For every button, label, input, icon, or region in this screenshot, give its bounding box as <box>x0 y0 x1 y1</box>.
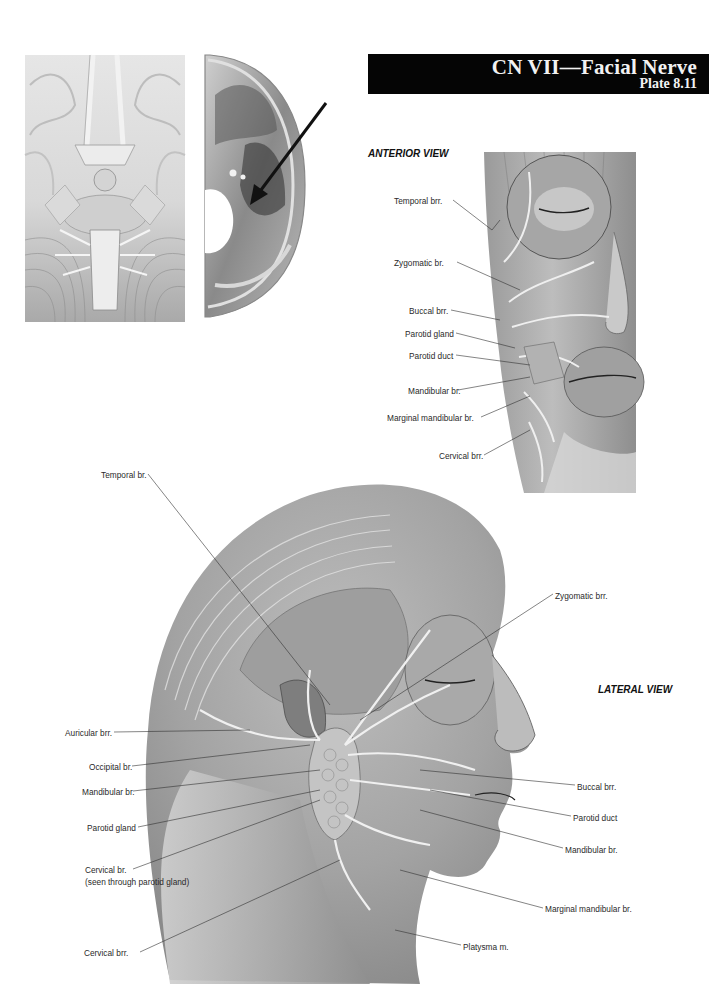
label-lateral-cervical-br-note: (seen through parotid gland) <box>85 877 189 887</box>
label-anterior-buccal-brr: Buccal brr. <box>409 306 448 316</box>
label-lateral-parotid-gland: Parotid gland <box>87 823 136 833</box>
label-lateral-marginal-mandibular-br: Marginal mandibular br. <box>545 904 632 914</box>
label-lateral-auricular-brr: Auricular brr. <box>65 728 112 738</box>
label-anterior-cervical-brr: Cervical brr. <box>439 451 483 461</box>
label-anterior-temporal-brr: Temporal brr. <box>394 196 442 206</box>
label-anterior-mandibular-br: Mandibular br. <box>408 386 461 396</box>
anterior-view-title: ANTERIOR VIEW <box>368 148 449 159</box>
lateral-view-title: LATERAL VIEW <box>598 684 672 695</box>
label-lateral-mandibular-br: Mandibular br. <box>82 787 135 797</box>
label-lateral-zygomatic-brr: Zygomatic brr. <box>555 591 608 601</box>
anterior-face-illustration <box>484 152 636 493</box>
plate-number: Plate 8.11 <box>639 76 697 92</box>
label-anterior-parotid-duct: Parotid duct <box>409 351 453 361</box>
label-lateral-platysma: Platysma m. <box>463 942 509 952</box>
label-lateral-buccal-brr: Buccal brr. <box>577 782 616 792</box>
label-lateral-cervical-br: Cervical br. <box>85 865 127 875</box>
label-anterior-marginal-mandibular-br: Marginal mandibular br. <box>387 413 474 423</box>
label-lateral-cervical-brr: Cervical brr. <box>84 948 128 958</box>
plate-header-banner: CN VII—Facial Nerve Plate 8.11 <box>368 54 709 94</box>
label-anterior-parotid-gland: Parotid gland <box>405 329 454 339</box>
label-lateral-occipital-br: Occipital br. <box>89 762 132 772</box>
label-anterior-zygomatic-br: Zygomatic br. <box>394 258 444 268</box>
lateral-head-illustration <box>130 470 570 984</box>
label-lateral-parotid-duct: Parotid duct <box>573 813 617 823</box>
label-lateral-temporal-br: Temporal br. <box>101 470 147 480</box>
brainstem-inferior-illustration <box>25 55 185 322</box>
label-lateral-mandibular-br: Mandibular br. <box>565 845 618 855</box>
pointer-arrow-icon <box>240 100 330 210</box>
